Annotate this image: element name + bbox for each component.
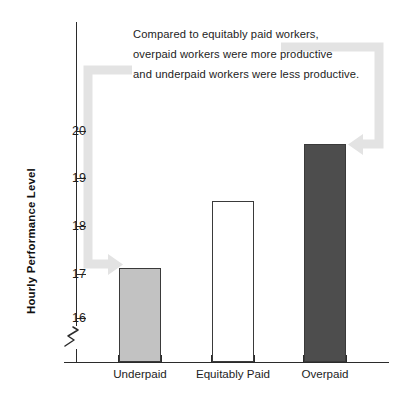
y-tick-label-17: 17: [62, 267, 86, 281]
y-tick-label-19: 19: [62, 171, 86, 185]
x-axis-divider-4: [254, 355, 255, 362]
y-axis-title: Hourly Performance Level: [25, 161, 37, 321]
y-tick-label-16: 16: [62, 311, 86, 325]
bar-overpaid: [304, 144, 346, 362]
x-axis-divider-6: [346, 355, 347, 362]
y-tick-label-20: 20: [62, 124, 86, 138]
annotation-line-2: overpaid workers were more productive: [133, 44, 403, 64]
axis-break-zigzag-icon: [64, 326, 90, 350]
arrow-to-overpaid-bar: [281, 47, 379, 155]
annotation-line-1: Compared to equitably paid workers,: [133, 24, 403, 44]
annotation-arrows-group: [0, 0, 414, 401]
annotation-line-3: and underpaid workers were less producti…: [133, 64, 403, 84]
chart-annotation-text: Compared to equitably paid workers, over…: [133, 24, 403, 84]
arrow-to-underpaid-bar: [88, 70, 132, 275]
bar-underpaid: [119, 268, 161, 362]
bar-chart-figure: Compared to equitably paid workers, over…: [0, 0, 414, 401]
bar-equitably-paid: [212, 201, 254, 362]
x-axis-divider-2: [161, 355, 162, 362]
y-tick-label-18: 18: [62, 219, 86, 233]
x-axis-label-overpaid: Overpaid: [265, 367, 385, 380]
